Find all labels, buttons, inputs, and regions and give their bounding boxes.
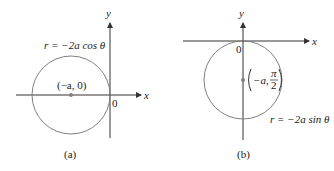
y-axis-label: y [105, 7, 111, 19]
origin-label: 0 [236, 43, 242, 55]
panel-b: x y 0 −a, π 2 r = −2a sin θ (b) [183, 7, 330, 161]
fraction-denominator: 2 [271, 79, 277, 91]
equation-label: r = −2a cos θ [44, 39, 106, 51]
x-axis-label: x [311, 35, 317, 47]
origin-label: 0 [112, 97, 118, 109]
center-point-label: −a, π 2 [249, 67, 282, 91]
center-point [69, 93, 73, 97]
center-label-prefix: −a, [253, 74, 269, 86]
x-axis-label: x [143, 89, 149, 101]
y-axis-label: y [238, 7, 244, 19]
center-point-label: (−a, 0) [57, 79, 87, 92]
equation-label: r = −2a sin θ [270, 113, 330, 125]
panel-a: x y 0 r = −2a cos θ (−a, 0) (a) [16, 7, 149, 161]
center-point [241, 78, 245, 82]
fraction-numerator: π [271, 67, 277, 79]
polar-circles-figure: x y 0 r = −2a cos θ (−a, 0) (a) x y 0 −a… [0, 0, 334, 171]
panel-caption: (b) [237, 148, 250, 161]
panel-caption: (a) [64, 148, 77, 161]
